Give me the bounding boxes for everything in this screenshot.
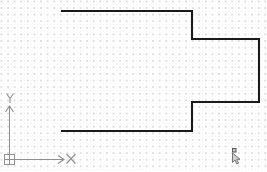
cad-drawing-canvas[interactable]: X Y	[0, 0, 267, 172]
cursor-pickbox	[233, 149, 237, 153]
cursor-arrow-icon	[233, 153, 241, 164]
step-polyline[interactable]	[62, 11, 259, 131]
pickbox-crosshair-cursor	[233, 149, 241, 165]
drawing-vector-layer[interactable]	[0, 0, 267, 172]
geometry-group[interactable]	[62, 11, 259, 131]
ucs-x-axis-label	[67, 154, 76, 164]
ucs-y-axis-label	[7, 94, 14, 104]
ucs-icon	[5, 94, 76, 165]
